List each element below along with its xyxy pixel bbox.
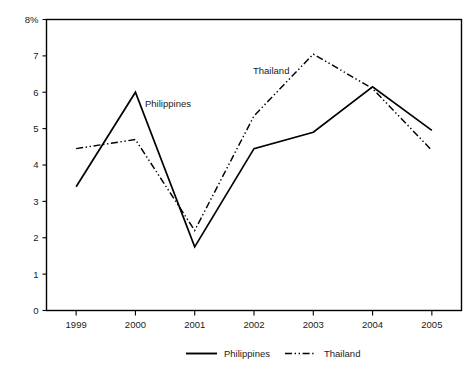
x-tick-label: 2002 — [243, 319, 264, 330]
x-tick-label: 1999 — [66, 319, 87, 330]
y-tick-label: 8% — [25, 14, 39, 25]
x-axis-tick-labels: 1999200020012002200320042005 — [66, 319, 443, 330]
plot-frame — [47, 20, 462, 311]
series-annotation-thailand: Thailand — [253, 65, 289, 76]
x-axis-ticks — [76, 311, 432, 316]
y-axis-tick-labels: 012345678% — [25, 14, 39, 316]
y-tick-label: 1 — [33, 269, 38, 280]
y-tick-label: 2 — [33, 232, 38, 243]
x-tick-label: 2004 — [362, 319, 383, 330]
y-tick-label: 4 — [33, 159, 38, 170]
y-tick-label: 6 — [33, 87, 38, 98]
y-tick-label: 7 — [33, 50, 38, 61]
series-line-philippines — [76, 87, 432, 247]
x-tick-label: 2000 — [125, 319, 146, 330]
series-line-thailand — [76, 54, 432, 230]
legend-label-philippines: Philippines — [224, 348, 270, 359]
y-tick-label: 5 — [33, 123, 38, 134]
legend-label-thailand: Thailand — [324, 348, 360, 359]
y-tick-label: 0 — [33, 305, 38, 316]
x-tick-label: 2005 — [421, 319, 442, 330]
x-tick-label: 2001 — [184, 319, 205, 330]
chart-canvas: 012345678% 1999200020012002200320042005 … — [0, 0, 474, 374]
series-annotation-philippines: Philippines — [145, 98, 191, 109]
y-tick-label: 3 — [33, 196, 38, 207]
line-chart: 012345678% 1999200020012002200320042005 … — [0, 0, 474, 374]
x-tick-label: 2003 — [303, 319, 324, 330]
chart-legend: Philippines Thailand — [186, 348, 360, 359]
